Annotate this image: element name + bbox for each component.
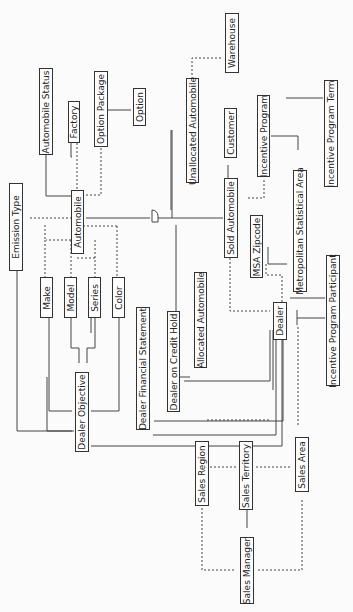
entity-label: Sales Region: [197, 445, 207, 503]
entity-emission-type[interactable]: Emission Type: [9, 183, 23, 271]
entity-dealer[interactable]: Dealer: [273, 302, 287, 340]
entity-sold-automobile[interactable]: Sold Automobile: [224, 178, 238, 258]
entity-label: Customer: [226, 111, 236, 155]
entity-label: Incentive Program Term: [326, 80, 336, 187]
entity-label: Incentive Program Participant: [328, 254, 338, 387]
entity-label: Sales Manager: [242, 537, 252, 603]
entity-label: Color: [114, 286, 124, 310]
entity-label: Automobile: [73, 196, 83, 247]
entity-label: Dealer Objective: [77, 374, 87, 449]
entity-label: Incentive Program: [259, 95, 269, 177]
entity-label: Allocated Automobile: [196, 272, 206, 368]
entity-warehouse[interactable]: Warehouse: [225, 13, 239, 73]
entity-label: Sales Area: [297, 441, 307, 489]
entity-incentive-program-term[interactable]: Incentive Program Term: [324, 80, 338, 187]
entity-make[interactable]: Make: [40, 277, 53, 318]
entity-model[interactable]: Model: [64, 277, 77, 318]
entity-series[interactable]: Series: [88, 277, 101, 318]
entity-label: Sales Territory: [241, 443, 251, 507]
entity-allocated-automobile[interactable]: Allocated Automobile: [194, 272, 207, 368]
entity-label: MSA Zipcode: [252, 217, 262, 276]
entity-dealer-on-credit-hold[interactable]: Dealer on Credit Hold: [167, 311, 180, 412]
entity-label: Make: [42, 286, 52, 310]
entity-label: Factory: [69, 106, 79, 139]
entity-label: Unallocated Automobile: [188, 77, 198, 185]
entity-label: Series: [90, 284, 100, 312]
entity-incentive-program[interactable]: Incentive Program: [257, 95, 270, 177]
entity-option-package[interactable]: Option Package: [94, 71, 108, 147]
entity-sales-region[interactable]: Sales Region: [195, 441, 209, 506]
entity-label: Option: [135, 92, 145, 122]
entity-sales-area[interactable]: Sales Area: [295, 437, 309, 492]
entity-automobile[interactable]: Automobile: [71, 190, 84, 254]
entity-label: Dealer: [275, 306, 285, 336]
entity-label: Metropolitan Statistical Area: [295, 167, 305, 295]
entity-sales-manager[interactable]: Sales Manager: [240, 537, 254, 604]
entity-customer[interactable]: Customer: [224, 108, 237, 158]
entity-label: Option Package: [96, 74, 106, 144]
entity-label: Model: [66, 284, 76, 311]
entity-label: Emission Type: [11, 195, 21, 259]
entity-label: Dealer on Credit Hold: [169, 313, 179, 410]
entity-incentive-program-participant[interactable]: Incentive Program Participant: [326, 255, 340, 386]
entity-unallocated-automobile[interactable]: Unallocated Automobile: [186, 78, 199, 183]
entity-automobile-status[interactable]: Automobile Status: [39, 68, 53, 155]
entity-metropolitan-statistical-area[interactable]: Metropolitan Statistical Area: [293, 170, 307, 292]
entity-label: Automobile Status: [41, 70, 51, 153]
entity-label: Sold Automobile: [226, 181, 236, 255]
entity-color[interactable]: Color: [112, 277, 125, 318]
entity-dealer-financial-statement[interactable]: Dealer Financial Statement: [136, 307, 150, 430]
entity-msa-zipcode[interactable]: MSA Zipcode: [250, 215, 263, 278]
entity-label: Dealer Financial Statement: [138, 307, 148, 429]
entity-factory[interactable]: Factory: [68, 101, 80, 143]
entity-dealer-objective[interactable]: Dealer Objective: [75, 372, 89, 452]
entity-sales-territory[interactable]: Sales Territory: [239, 441, 253, 510]
entity-label: Warehouse: [227, 18, 237, 68]
entity-option[interactable]: Option: [133, 88, 146, 126]
